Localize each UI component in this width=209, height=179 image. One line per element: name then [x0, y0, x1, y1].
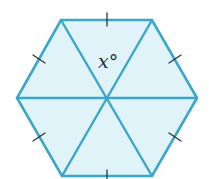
angle-label-x: x° [98, 52, 118, 71]
hexagon-diagram [0, 0, 209, 179]
